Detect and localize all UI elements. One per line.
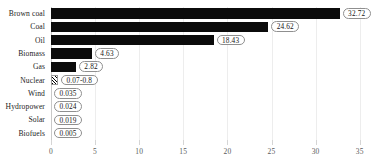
value-label: 4.63 [95, 48, 119, 59]
category-label: Gas [0, 60, 45, 73]
bar-chart: Brown coal32.72Coal24.62Oil18.43Biomass4… [0, 0, 378, 168]
bar-row: Coal24.62 [0, 20, 378, 33]
x-tick-mark [227, 140, 228, 145]
bar-row: Nuclear0.07-0.8 [0, 74, 378, 87]
x-tick-mark [95, 140, 96, 145]
bar-row: Hydropower0.024 [0, 100, 378, 113]
x-tick-label: 35 [356, 147, 364, 156]
category-label: Coal [0, 20, 45, 33]
bar-row: Brown coal32.72 [0, 7, 378, 20]
category-label: Biomass [0, 47, 45, 60]
x-tick-mark [316, 140, 317, 145]
bar [51, 75, 58, 85]
bar-row: Gas2.82 [0, 60, 378, 73]
value-label: 2.82 [79, 61, 103, 72]
bar-row: Oil18.43 [0, 34, 378, 47]
x-tick-mark [183, 140, 184, 145]
category-label: Brown coal [0, 7, 45, 20]
value-label: 32.72 [343, 8, 371, 19]
bar-row: Solar0.019 [0, 113, 378, 126]
bar [51, 22, 268, 32]
category-label: Solar [0, 113, 45, 126]
x-tick-label: 5 [93, 147, 97, 156]
bar-row: Wind0.035 [0, 87, 378, 100]
bar [51, 8, 340, 18]
bar [51, 35, 214, 45]
category-label: Wind [0, 87, 45, 100]
bar [51, 48, 92, 58]
x-tick-mark [360, 140, 361, 145]
x-tick-label: 15 [179, 147, 187, 156]
x-tick-label: 25 [268, 147, 276, 156]
value-label: 24.62 [271, 21, 299, 32]
category-label: Oil [0, 34, 45, 47]
category-label: Biofuels [0, 127, 45, 140]
category-label: Nuclear [0, 74, 45, 87]
value-label: 18.43 [217, 35, 245, 46]
bar-row: Biofuels0.005 [0, 127, 378, 140]
x-tick-label: 0 [49, 147, 53, 156]
value-label: 0.019 [54, 115, 82, 126]
bar-row: Biomass4.63 [0, 47, 378, 60]
x-tick-mark [272, 140, 273, 145]
x-tick-label: 10 [135, 147, 143, 156]
x-tick-label: 20 [223, 147, 231, 156]
value-label: 0.005 [54, 128, 82, 139]
category-label: Hydropower [0, 100, 45, 113]
x-tick-mark [51, 140, 52, 145]
bar [51, 62, 76, 72]
x-tick-mark [139, 140, 140, 145]
x-tick-label: 30 [312, 147, 320, 156]
value-label: 0.024 [54, 101, 82, 112]
value-label: 0.07-0.8 [61, 75, 98, 86]
value-label: 0.035 [54, 88, 82, 99]
